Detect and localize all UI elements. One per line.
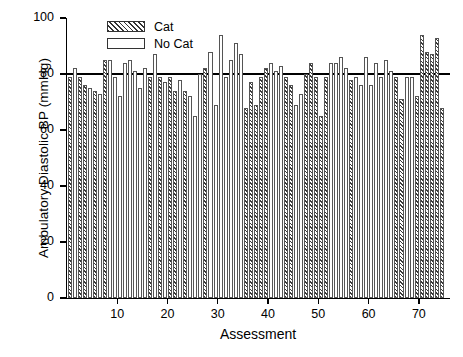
bar-assessment-4 bbox=[83, 85, 87, 298]
bar-series-container bbox=[67, 18, 449, 298]
bar-assessment-41 bbox=[269, 63, 273, 298]
bar-assessment-47 bbox=[299, 94, 303, 298]
bar-assessment-28 bbox=[203, 68, 207, 298]
x-tick-20 bbox=[167, 298, 168, 304]
bar-assessment-55 bbox=[339, 57, 343, 298]
x-tick-40 bbox=[267, 298, 268, 304]
bar-assessment-35 bbox=[239, 54, 243, 298]
legend-label-cat: Cat bbox=[154, 20, 173, 34]
x-axis-title: Assessment bbox=[66, 326, 450, 342]
bar-assessment-46 bbox=[294, 105, 298, 298]
bar-assessment-63 bbox=[379, 77, 383, 298]
bar-assessment-39 bbox=[259, 77, 263, 298]
bar-assessment-22 bbox=[173, 91, 177, 298]
x-tick-50 bbox=[318, 298, 319, 304]
bar-assessment-58 bbox=[354, 77, 358, 298]
bar-assessment-5 bbox=[88, 88, 92, 298]
bar-assessment-17 bbox=[148, 77, 152, 298]
bar-assessment-56 bbox=[344, 68, 348, 298]
bar-assessment-75 bbox=[440, 108, 444, 298]
bar-assessment-44 bbox=[284, 77, 288, 298]
y-tick-label-60: 60 bbox=[14, 122, 54, 136]
bar-assessment-72 bbox=[425, 52, 429, 298]
bar-assessment-61 bbox=[369, 85, 373, 298]
x-tick-label-60: 60 bbox=[351, 307, 387, 321]
bar-assessment-53 bbox=[329, 63, 333, 298]
bar-assessment-70 bbox=[415, 96, 419, 298]
bar-assessment-43 bbox=[279, 66, 283, 298]
bar-assessment-20 bbox=[163, 82, 167, 298]
bar-assessment-62 bbox=[374, 63, 378, 298]
bar-assessment-45 bbox=[289, 85, 293, 298]
chart-legend: Cat No Cat bbox=[107, 19, 193, 53]
bar-assessment-42 bbox=[274, 71, 278, 298]
bar-assessment-24 bbox=[183, 91, 187, 298]
x-tick-70 bbox=[418, 298, 419, 304]
bar-assessment-52 bbox=[324, 77, 328, 298]
x-tick-label-50: 50 bbox=[300, 307, 336, 321]
legend-swatch-cat bbox=[107, 21, 145, 32]
bar-chart-figure: Ambulatory Diastolic BP (mmHg) 020406080… bbox=[0, 0, 463, 357]
y-tick-label-100: 100 bbox=[14, 10, 54, 24]
x-tick-10 bbox=[117, 298, 118, 304]
x-tick-label-70: 70 bbox=[401, 307, 437, 321]
bar-assessment-73 bbox=[430, 54, 434, 298]
y-tick-0 bbox=[60, 297, 66, 298]
bar-assessment-13 bbox=[128, 60, 132, 298]
y-tick-40 bbox=[60, 185, 66, 186]
bar-assessment-37 bbox=[249, 82, 253, 298]
bar-assessment-65 bbox=[389, 71, 393, 298]
x-tick-label-40: 40 bbox=[250, 307, 286, 321]
bar-assessment-38 bbox=[254, 105, 258, 298]
bar-assessment-9 bbox=[108, 60, 112, 298]
bar-assessment-67 bbox=[399, 99, 403, 298]
bar-assessment-23 bbox=[178, 80, 182, 298]
bar-assessment-10 bbox=[113, 77, 117, 298]
bar-assessment-16 bbox=[143, 68, 147, 298]
bar-assessment-68 bbox=[405, 77, 409, 298]
y-tick-20 bbox=[60, 241, 66, 242]
bar-assessment-25 bbox=[188, 96, 192, 298]
bar-assessment-66 bbox=[394, 77, 398, 298]
bar-assessment-1 bbox=[68, 77, 72, 298]
bar-assessment-49 bbox=[309, 63, 313, 298]
x-tick-label-10: 10 bbox=[99, 307, 135, 321]
bar-assessment-29 bbox=[208, 52, 212, 298]
bar-assessment-69 bbox=[410, 77, 414, 298]
bar-assessment-34 bbox=[234, 43, 238, 298]
bar-assessment-40 bbox=[264, 68, 268, 298]
y-tick-label-20: 20 bbox=[14, 234, 54, 248]
bar-assessment-11 bbox=[118, 96, 122, 298]
bar-assessment-21 bbox=[168, 77, 172, 298]
bar-assessment-57 bbox=[349, 80, 353, 298]
x-tick-label-20: 20 bbox=[150, 307, 186, 321]
bar-assessment-36 bbox=[244, 108, 248, 298]
bar-assessment-27 bbox=[198, 74, 202, 298]
bar-assessment-6 bbox=[93, 91, 97, 298]
bar-assessment-74 bbox=[435, 38, 439, 298]
y-tick-label-0: 0 bbox=[14, 290, 54, 304]
bar-assessment-60 bbox=[364, 57, 368, 298]
bar-assessment-59 bbox=[359, 85, 363, 298]
bar-assessment-48 bbox=[304, 74, 308, 298]
y-tick-100 bbox=[60, 17, 66, 18]
bar-assessment-3 bbox=[78, 77, 82, 298]
y-tick-label-80: 80 bbox=[14, 66, 54, 80]
bar-assessment-30 bbox=[214, 105, 218, 298]
bar-assessment-51 bbox=[319, 116, 323, 298]
bar-assessment-19 bbox=[158, 77, 162, 298]
bar-assessment-50 bbox=[314, 77, 318, 298]
x-tick-label-30: 30 bbox=[200, 307, 236, 321]
bar-assessment-31 bbox=[219, 35, 223, 298]
legend-swatch-no-cat bbox=[107, 38, 145, 49]
bar-assessment-26 bbox=[193, 116, 197, 298]
y-axis-title: Ambulatory Diastolic BP (mmHg) bbox=[36, 18, 56, 298]
bar-assessment-64 bbox=[384, 60, 388, 298]
bar-assessment-54 bbox=[334, 63, 338, 298]
y-tick-60 bbox=[60, 129, 66, 130]
bar-assessment-18 bbox=[153, 54, 157, 298]
bar-assessment-7 bbox=[98, 94, 102, 298]
legend-entry-cat: Cat bbox=[107, 19, 193, 34]
bar-assessment-15 bbox=[138, 88, 142, 298]
x-tick-30 bbox=[217, 298, 218, 304]
